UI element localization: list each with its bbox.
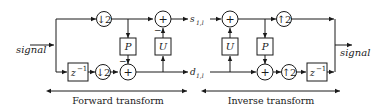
svg-text:z: z	[70, 68, 76, 78]
svg-text:1,l: 1,l	[196, 19, 204, 26]
svg-text:U: U	[159, 41, 168, 52]
lifting-scheme-diagram: signal ↓2 z −1 ↓2 P −	[0, 0, 380, 109]
adder-top-forward: +	[155, 11, 171, 27]
svg-text:+: +	[225, 13, 234, 26]
inverse-caption: Inverse transform	[228, 95, 315, 106]
svg-text:↑2: ↑2	[282, 67, 297, 78]
update-box-inverse: U	[222, 38, 238, 55]
svg-text:+: +	[260, 66, 269, 79]
svg-text:1,l: 1,l	[196, 72, 204, 79]
predict-box-forward: P	[120, 38, 136, 55]
forward-transform: signal ↓2 z −1 ↓2 P −	[16, 11, 188, 81]
svg-text:P: P	[124, 41, 132, 52]
upsample-top-node: ↑2	[277, 12, 292, 27]
delay-box-inverse: z −1	[307, 63, 327, 81]
svg-text:+: +	[158, 13, 167, 26]
svg-text:z: z	[309, 68, 315, 78]
predict-box-inverse: P	[257, 38, 273, 55]
downsample-top-node: ↓2	[97, 12, 112, 27]
svg-text:+: +	[123, 66, 132, 79]
adder-bottom-inverse: +	[257, 64, 273, 80]
svg-text:P: P	[261, 41, 269, 52]
input-signal-label: signal	[16, 44, 46, 55]
update-box-forward: U	[155, 38, 171, 55]
adder-bottom-forward: +	[120, 64, 136, 80]
inverse-transform: U + P + ↑2 ↑2	[210, 11, 370, 81]
adder-top-inverse: +	[222, 11, 238, 27]
svg-text:−1: −1	[316, 65, 326, 73]
upsample-bottom-node: ↑2	[282, 65, 297, 80]
forward-caption: Forward transform	[72, 95, 164, 106]
svg-text:s: s	[190, 14, 195, 24]
svg-text:−1: −1	[77, 65, 87, 73]
detail-coeff-label: d 1,l	[190, 67, 204, 79]
downsample-bottom-node: ↓2	[96, 65, 111, 80]
svg-text:↓2: ↓2	[97, 14, 112, 25]
approx-coeff-label: s 1,l	[190, 14, 204, 26]
svg-text:U: U	[226, 41, 235, 52]
svg-text:↓2: ↓2	[96, 67, 111, 78]
output-signal-label: signal	[340, 47, 370, 58]
delay-box-forward: z −1	[68, 63, 88, 81]
svg-text:↑2: ↑2	[277, 14, 292, 25]
